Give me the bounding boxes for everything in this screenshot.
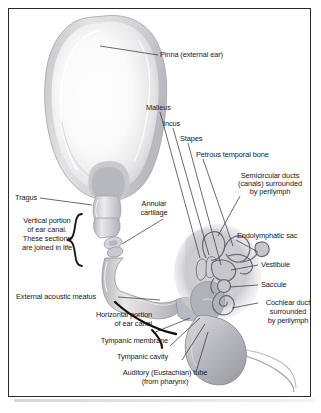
label-tragus: Tragus xyxy=(15,194,37,203)
leader-annular xyxy=(122,219,163,244)
label-incus: Incus xyxy=(163,120,180,129)
label-malleus: Malleus xyxy=(146,104,171,113)
figure-canvas: Pinna (external ear) Malleus Incus Stape… xyxy=(0,0,321,413)
leader-horizontal xyxy=(153,318,190,333)
label-vertical-portion-line4: are joined in life xyxy=(10,244,84,253)
label-endolymphatic-sac: Endolymphatic sac xyxy=(237,232,297,241)
label-tympanic-cavity: Tympanic cavity xyxy=(70,353,168,362)
label-stapes: Stapes xyxy=(180,135,202,144)
label-saccule: Saccule xyxy=(261,281,287,290)
label-vestibule: Vestibule xyxy=(261,261,290,270)
label-tympanic-membrane: Tympanic membrane xyxy=(58,337,168,346)
label-petrous-temporal-bone: Petrous temporal bone xyxy=(196,151,269,160)
annular-cartilage xyxy=(103,235,124,259)
tragus-and-canal-neck xyxy=(93,196,121,238)
leader-tragus xyxy=(40,198,92,205)
label-external-acoustic-meatus: External acoustic meatus xyxy=(16,293,96,302)
label-auditory-tube-line2: (from pharynx) xyxy=(104,378,226,387)
label-pinna: Pinna (external ear) xyxy=(160,51,223,60)
label-semicircular-ducts-line3: by perilymph xyxy=(224,188,316,197)
label-horizontal-portion-line2: of ear canal xyxy=(58,320,152,329)
label-annular-line2: cartilage xyxy=(128,209,180,218)
label-cochlear-duct-line3: by perilymph xyxy=(258,317,318,326)
